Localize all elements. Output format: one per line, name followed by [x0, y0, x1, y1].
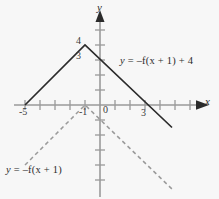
x-axis-label: x — [205, 95, 210, 107]
solid-curve-equation-label: y = –f(x + 1) + 4 — [120, 55, 193, 66]
y-axis-label: y — [97, 1, 102, 13]
x-tick-label-neg5: -5 — [19, 106, 27, 117]
graph-figure: y x -5 -1 0 3 4 3 y = –f(x + 1) + 4 y = … — [0, 0, 219, 199]
solid-equation-body: = –f(x + 1) + 4 — [125, 55, 193, 66]
x-tick-label-neg1: -1 — [79, 106, 87, 117]
y-tick-label-three: 3 — [76, 50, 81, 61]
y-tick-label-four: 4 — [76, 35, 81, 46]
x-tick-label-three: 3 — [141, 107, 146, 118]
dashed-equation-body: = –f(x + 1) — [11, 164, 62, 175]
dashed-curve-equation-label: y = –f(x + 1) — [6, 164, 62, 175]
x-tick-label-zero: 0 — [103, 104, 108, 115]
